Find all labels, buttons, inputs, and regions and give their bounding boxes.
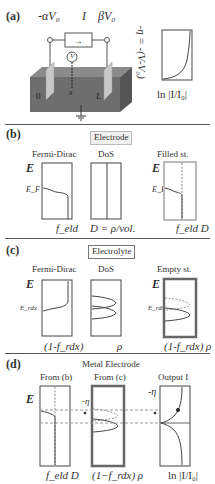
electrolyte-dos-plot [91, 280, 123, 338]
arrow-right-icon: → [73, 35, 83, 46]
panel-d-label: (d) [6, 358, 21, 370]
panel-c-label: (c) [6, 244, 19, 256]
panel-b-title: Electrode [90, 131, 132, 145]
energy-axis-label: E [152, 278, 160, 290]
plot-x-label: f_eld D [176, 223, 209, 234]
output-y-axis-label: -η [148, 387, 156, 397]
divider-b-c [5, 238, 210, 239]
divider-a-b [5, 124, 210, 125]
empty-states-plot [163, 278, 199, 340]
filled-states-plot [164, 162, 198, 222]
iv-y-axis-label: -η = -(V-V₀) [136, 26, 147, 96]
output-current-plot [160, 386, 194, 468]
electrolyte-fermi-dirac-plot [42, 280, 74, 338]
position-x-label: x [69, 89, 73, 97]
iv-curve-plot [162, 30, 197, 85]
panel-c-title: Electrolyte [88, 245, 135, 259]
plot-x-label: ρ [117, 341, 122, 352]
circuit-diagram: → [0, 0, 130, 110]
plot-title: DoS [98, 150, 114, 159]
plot-title: DoS [98, 265, 114, 274]
panel-d-title: Metal Electrode [82, 360, 140, 369]
plot-x-label: (1−f_rdx) ρ [92, 470, 143, 481]
plot-x-label: f_eld [56, 223, 78, 234]
fermi-dirac-plot [42, 163, 74, 221]
plot-x-label: D = ρ/vol. [90, 223, 135, 234]
plot-title: From (b) [40, 373, 72, 382]
plot-title: Fermi-Dirac [32, 150, 76, 159]
plot-x-label: (1-f_rdx) ρ [164, 341, 211, 352]
plot-title: Output I [158, 373, 188, 382]
plot-x-label: f_eld D [46, 470, 79, 481]
voltmeter-label: V [70, 53, 74, 60]
dos-plot [91, 163, 123, 221]
divider-c-d [5, 353, 210, 354]
energy-axis-label: E [152, 162, 160, 174]
position-zero-label: 0 [36, 92, 41, 101]
energy-axis-label: E [26, 278, 34, 290]
position-l-label: L [96, 92, 101, 101]
plot-title: Filled st. [157, 150, 189, 159]
plot-title: Fermi-Dirac [32, 265, 76, 274]
plot-title: From (c) [94, 373, 126, 382]
plot-title: Empty st. [157, 265, 192, 274]
redox-level-label: E_rdx [20, 305, 37, 312]
plot-x-label: ln |I/I₀| [168, 470, 198, 481]
energy-axis-label: E [26, 162, 34, 174]
panel-b-label: (b) [6, 128, 21, 140]
fermi-level-label: E_F [26, 186, 40, 194]
plot-x-label: (1-f_rdx) [44, 341, 83, 352]
iv-x-axis-label: ln |I/I₀| [157, 89, 187, 100]
